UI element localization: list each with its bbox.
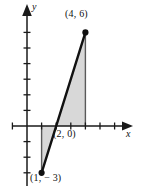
y-axis-label: y xyxy=(32,1,36,12)
coordinate-plane-svg xyxy=(0,0,141,191)
point-label-1-neg3: (1, − 3) xyxy=(30,172,61,183)
y-axis-arrowhead xyxy=(22,4,32,16)
point-marker-4-6 xyxy=(82,29,88,35)
point-label-4-6: (4, 6) xyxy=(65,8,88,19)
graph-figure: (4, 6) (2, 0) (1, − 3) x y xyxy=(0,0,141,191)
x-axis-label: x xyxy=(126,128,130,139)
point-label-2-0: (2, 0) xyxy=(53,128,76,139)
